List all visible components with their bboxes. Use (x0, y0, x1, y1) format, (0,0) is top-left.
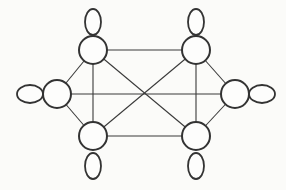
loop-top-right (188, 9, 204, 35)
graph-diagram (0, 0, 286, 190)
loop-bottom-right (188, 153, 204, 179)
node-bottom-right (182, 122, 210, 150)
node-top-left (79, 36, 107, 64)
node-right (221, 80, 249, 108)
edge-layer (57, 50, 235, 136)
loop-bottom-left (85, 153, 101, 179)
node-top-right (182, 36, 210, 64)
node-left (43, 80, 71, 108)
node-layer (43, 36, 249, 150)
loop-top-left (85, 9, 101, 35)
node-bottom-left (79, 122, 107, 150)
loop-left (17, 85, 43, 103)
loop-right (249, 85, 275, 103)
